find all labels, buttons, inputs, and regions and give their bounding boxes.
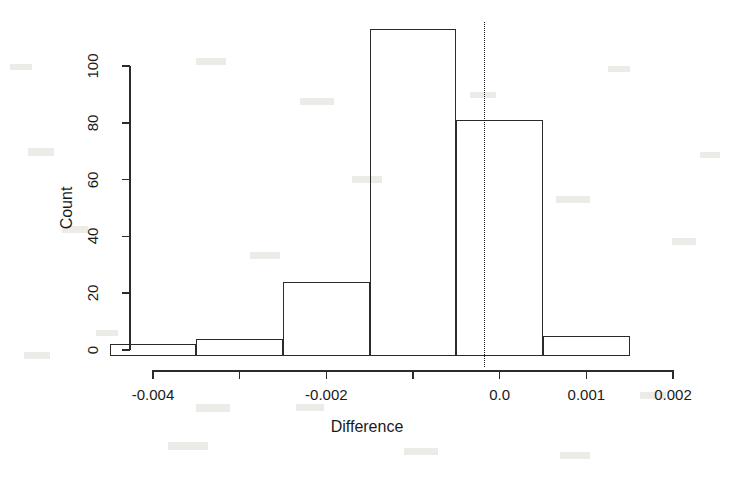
x-axis-title: Difference [0, 418, 734, 436]
histogram-bar [196, 339, 283, 355]
scan-artifact [700, 152, 720, 158]
histogram-figure: Count 020406080100 -0.004-0.0020.00.0010… [0, 0, 734, 478]
x-axis-tick [586, 370, 588, 379]
scan-artifact [470, 92, 496, 98]
y-axis-tick [122, 122, 130, 124]
scan-artifact [556, 196, 590, 203]
histogram-bar [456, 120, 543, 355]
scan-artifact [296, 404, 324, 411]
scan-artifact [300, 98, 334, 105]
x-axis-tick-label: -0.002 [305, 386, 348, 403]
histogram-bar [283, 282, 370, 355]
histogram-bar [110, 344, 197, 355]
x-axis-tick [239, 370, 241, 379]
scan-artifact [196, 404, 230, 412]
scan-artifact [10, 64, 32, 70]
y-axis-tick-label: 100 [84, 44, 102, 88]
histogram-baseline [110, 355, 630, 356]
scan-artifact [250, 252, 280, 259]
y-axis-tick-label: 0 [84, 328, 102, 372]
x-axis-tick-label: 0.001 [568, 386, 606, 403]
scan-artifact [28, 148, 54, 156]
x-axis-tick-label: -0.004 [132, 386, 175, 403]
x-axis-tick [499, 370, 501, 379]
x-axis-tick-label: 0.002 [654, 386, 692, 403]
scan-artifact [168, 442, 208, 450]
scan-artifact [196, 58, 226, 65]
y-axis-tick [122, 65, 130, 67]
y-axis-tick-label: 80 [84, 101, 102, 145]
y-axis-tick [122, 236, 130, 238]
y-axis-tick [122, 292, 130, 294]
x-axis-tick [152, 370, 154, 379]
y-axis-line [129, 66, 131, 350]
scan-artifact [24, 352, 50, 359]
y-axis-tick-label: 40 [84, 214, 102, 258]
reference-line-annotation [484, 22, 485, 367]
scan-artifact [672, 238, 696, 245]
y-axis-tick [122, 179, 130, 181]
histogram-bar [543, 336, 630, 355]
y-axis-tick-label: 20 [84, 271, 102, 315]
x-axis-tick [672, 370, 674, 379]
scan-artifact [608, 66, 630, 72]
histogram-bar [370, 29, 457, 355]
y-axis-title: Count [57, 148, 77, 268]
x-axis-tick [326, 370, 328, 379]
scan-artifact [404, 448, 438, 455]
x-axis-tick [412, 370, 414, 379]
y-axis-tick-label: 60 [84, 158, 102, 202]
scan-artifact [560, 452, 590, 459]
x-axis-tick-label: 0.0 [489, 386, 510, 403]
